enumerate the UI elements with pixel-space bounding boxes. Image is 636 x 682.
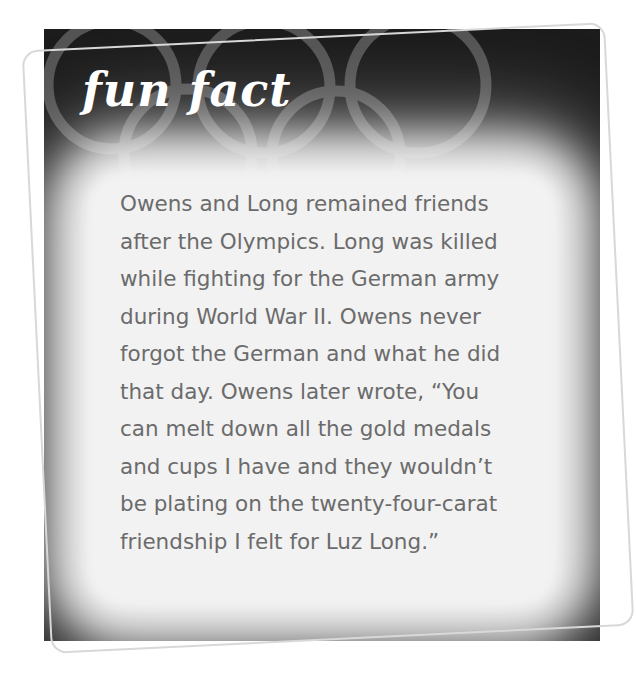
tilted-frame-outline bbox=[22, 22, 635, 654]
